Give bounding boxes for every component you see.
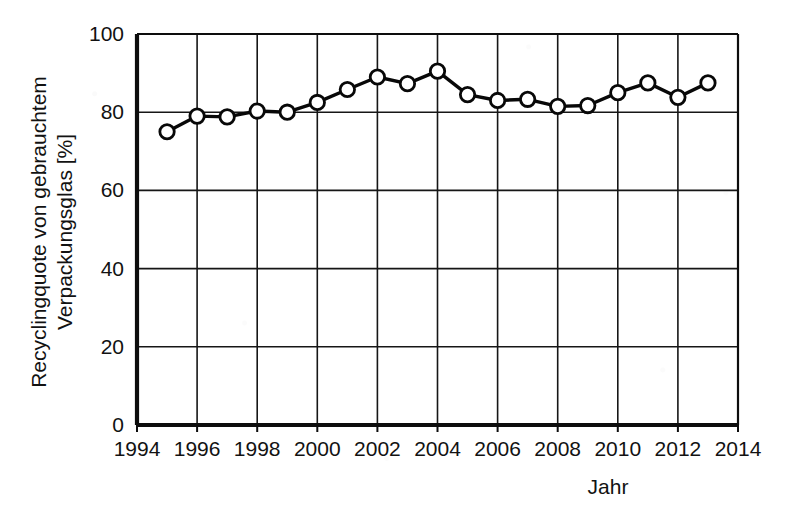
line-chart: 1994199619982000200220042006200820102012… — [0, 0, 789, 521]
y-axis-title-line1: Recyclingquote von gebrauchtem — [27, 76, 50, 388]
x-tick-label: 1994 — [114, 437, 161, 460]
x-tick-label: 1998 — [234, 437, 281, 460]
y-tick-label: 20 — [101, 335, 124, 358]
data-point — [490, 93, 504, 107]
x-tick-label: 2008 — [534, 437, 581, 460]
data-point — [430, 64, 444, 78]
data-point — [340, 82, 354, 96]
y-tick-label: 0 — [112, 413, 124, 436]
x-tick-label: 2014 — [715, 437, 762, 460]
data-point — [701, 76, 715, 90]
x-tick-label: 1996 — [174, 437, 221, 460]
data-point — [641, 76, 655, 90]
data-point — [520, 92, 534, 106]
data-point — [611, 85, 625, 99]
x-tick-label: 2002 — [354, 437, 401, 460]
x-tick-label: 2006 — [474, 437, 521, 460]
x-tick-label: 2010 — [594, 437, 641, 460]
y-tick-label: 100 — [89, 22, 124, 45]
y-tick-label: 40 — [101, 257, 124, 280]
x-tick-label: 2004 — [414, 437, 461, 460]
y-tick-label: 80 — [101, 100, 124, 123]
x-tick-label: 2000 — [294, 437, 341, 460]
y-axis-tick-labels: 020406080100 — [89, 22, 124, 436]
data-point — [220, 110, 234, 124]
chart-figure: 1994199619982000200220042006200820102012… — [0, 0, 789, 521]
data-point — [160, 125, 174, 139]
data-point — [400, 76, 414, 90]
data-point — [551, 99, 565, 113]
data-point — [280, 105, 294, 119]
x-tick-label: 2012 — [655, 437, 702, 460]
data-point — [671, 90, 685, 104]
data-point — [460, 87, 474, 101]
y-axis-title: Recyclingquote von gebrauchtem Verpackun… — [27, 76, 76, 388]
data-point — [250, 104, 264, 118]
y-tick-label: 60 — [101, 178, 124, 201]
data-point — [190, 109, 204, 123]
data-point — [370, 70, 384, 84]
data-point — [581, 98, 595, 112]
x-axis-tick-labels: 1994199619982000200220042006200820102012… — [114, 437, 762, 460]
data-point — [310, 95, 324, 109]
y-axis-title-line2: Verpackungsglas [%] — [53, 134, 76, 330]
x-axis-title: Jahr — [588, 475, 629, 498]
